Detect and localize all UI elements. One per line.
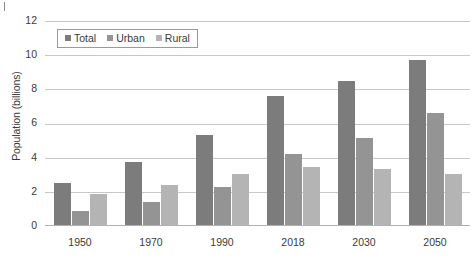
legend-item-rural: Rural bbox=[156, 33, 190, 44]
y-axis-tick-label: 2 bbox=[11, 186, 37, 197]
bar-urban-1950 bbox=[72, 211, 89, 225]
y-axis-tick-label: 10 bbox=[11, 49, 37, 60]
legend-item-total: Total bbox=[65, 33, 96, 44]
legend-item-urban: Urban bbox=[107, 33, 145, 44]
bar-group-2050 bbox=[400, 21, 471, 226]
bar-urban-2018 bbox=[285, 154, 302, 225]
bar-rural-1990 bbox=[232, 174, 249, 225]
bar-groups bbox=[45, 21, 470, 226]
x-axis-tick-label-2050: 2050 bbox=[400, 236, 470, 248]
y-axis-tick-label: 4 bbox=[11, 152, 37, 163]
bar-total-1950 bbox=[54, 183, 71, 226]
x-axis-tick-label-2030: 2030 bbox=[329, 236, 399, 248]
bar-group-2018 bbox=[258, 21, 329, 226]
y-axis-tick-label: 8 bbox=[11, 83, 37, 94]
x-axis-tick-label-1950: 1950 bbox=[45, 236, 115, 248]
bar-rural-1950 bbox=[90, 194, 107, 225]
bar-rural-2030 bbox=[374, 169, 391, 225]
bar-group-1990 bbox=[187, 21, 258, 226]
legend-label-urban: Urban bbox=[116, 33, 145, 44]
bar-group-1950 bbox=[45, 21, 116, 226]
bar-group-1970 bbox=[116, 21, 187, 226]
y-axis-tick-label: 12 bbox=[11, 15, 37, 26]
bar-urban-1970 bbox=[143, 202, 160, 225]
chart-legend: Total Urban Rural bbox=[57, 29, 198, 48]
x-axis-tick-label-1970: 1970 bbox=[116, 236, 186, 248]
bar-rural-1970 bbox=[161, 185, 178, 225]
bar-total-2018 bbox=[267, 96, 284, 225]
bar-urban-1990 bbox=[214, 187, 231, 225]
bar-chart: Population (billions) 12 10 8 6 4 2 0 bbox=[0, 0, 475, 268]
legend-label-rural: Rural bbox=[165, 33, 190, 44]
bar-total-1990 bbox=[196, 135, 213, 225]
plot-area bbox=[45, 21, 470, 226]
crop-corner-mark-icon bbox=[4, 2, 5, 11]
bar-rural-2050 bbox=[445, 174, 462, 225]
square-swatch-icon bbox=[156, 35, 162, 41]
square-swatch-icon bbox=[107, 35, 113, 41]
y-axis-tick-label: 0 bbox=[11, 220, 37, 231]
bar-urban-2050 bbox=[427, 113, 444, 225]
bar-total-2050 bbox=[409, 60, 426, 225]
x-axis-tick-label-2018: 2018 bbox=[258, 236, 328, 248]
legend-label-total: Total bbox=[74, 33, 96, 44]
bar-group-2030 bbox=[329, 21, 400, 226]
bar-rural-2018 bbox=[303, 167, 320, 225]
x-axis-tick-label-1990: 1990 bbox=[187, 236, 257, 248]
y-axis-tick-label: 6 bbox=[11, 117, 37, 128]
bar-urban-2030 bbox=[356, 138, 373, 225]
bar-total-2030 bbox=[338, 81, 355, 226]
bar-total-1970 bbox=[125, 162, 142, 225]
square-swatch-icon bbox=[65, 35, 71, 41]
